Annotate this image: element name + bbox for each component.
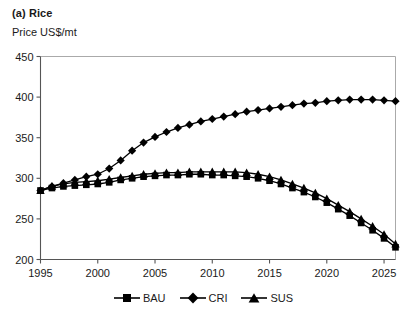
data-point-triangle	[334, 201, 342, 209]
data-point-diamond	[254, 106, 262, 114]
legend-label-bau: BAU	[143, 293, 166, 304]
data-point-diamond	[139, 138, 147, 146]
data-point-diamond	[265, 104, 273, 112]
data-point-diamond	[105, 164, 113, 172]
data-point-diamond	[243, 108, 251, 116]
data-point-diamond	[300, 99, 308, 107]
data-point-triangle	[345, 207, 353, 215]
data-point-diamond	[220, 112, 228, 120]
legend-item-cri: CRI	[180, 292, 228, 304]
series-line-sus	[41, 172, 396, 244]
data-point-triangle	[380, 230, 388, 238]
data-point-diamond	[197, 117, 205, 125]
series-line-cri	[41, 100, 396, 191]
legend-label-cri: CRI	[209, 293, 228, 304]
legend-item-bau: BAU	[114, 292, 166, 304]
y-tick-label-400: 400	[15, 91, 33, 103]
data-point-triangle	[368, 222, 376, 230]
data-point-diamond	[208, 115, 216, 123]
data-point-triangle	[323, 194, 331, 202]
data-point-triangle	[311, 189, 319, 197]
x-tick-label-2000: 2000	[86, 267, 110, 279]
y-tick-label-350: 350	[15, 132, 33, 144]
data-point-diamond	[151, 133, 159, 141]
diamond-marker-icon	[180, 292, 206, 304]
x-tick-label-1995: 1995	[28, 267, 52, 279]
data-point-diamond	[368, 95, 376, 103]
data-point-diamond	[277, 103, 285, 111]
data-point-diamond	[346, 95, 354, 103]
x-tick-label-2025: 2025	[372, 267, 396, 279]
legend-item-sus: SUS	[241, 292, 293, 304]
y-tick-label-200: 200	[15, 254, 33, 266]
data-point-diamond	[311, 99, 319, 107]
series-cri	[36, 95, 399, 194]
y-tick-label-450: 450	[15, 51, 33, 63]
x-tick-label-2010: 2010	[200, 267, 224, 279]
x-tick-label-2015: 2015	[257, 267, 281, 279]
data-point-diamond	[323, 97, 331, 105]
rice-price-figure: (a) Rice Price US$/mt 200250300350400450…	[0, 0, 407, 321]
data-point-diamond	[380, 96, 388, 104]
data-point-diamond	[231, 110, 239, 118]
series-sus	[36, 168, 399, 248]
square-marker-icon	[114, 292, 140, 304]
line-chart-plot: 2002503003504004501995200020052010201520…	[0, 0, 407, 292]
data-point-diamond	[185, 121, 193, 129]
data-point-diamond	[334, 96, 342, 104]
y-tick-label-300: 300	[15, 172, 33, 184]
legend-label-sus: SUS	[270, 293, 293, 304]
data-point-triangle	[357, 215, 365, 223]
data-point-diamond	[288, 101, 296, 109]
x-tick-label-2005: 2005	[143, 267, 167, 279]
x-tick-label-2020: 2020	[315, 267, 339, 279]
y-tick-label-250: 250	[15, 213, 33, 225]
chart-legend: BAU CRI SUS	[0, 292, 407, 304]
data-point-diamond	[174, 124, 182, 132]
series-bau	[37, 171, 399, 251]
series-line-bau	[41, 174, 396, 247]
data-point-diamond	[357, 95, 365, 103]
data-point-diamond	[391, 97, 399, 105]
data-point-diamond	[162, 128, 170, 136]
triangle-marker-icon	[241, 292, 267, 304]
